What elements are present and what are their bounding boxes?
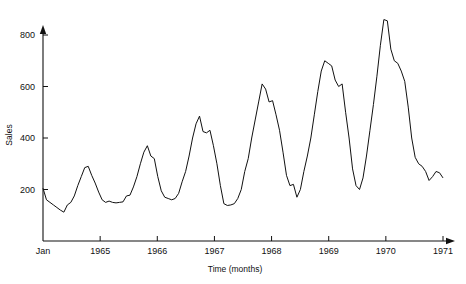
x-axis-ticks: Jan1965196619671968196919701971 — [36, 236, 453, 256]
y-axis-ticks: 200400600800 — [20, 30, 48, 195]
x-tick-label: 1967 — [204, 246, 224, 256]
x-axis-group: Jan1965196619671968196919701971 — [36, 236, 455, 256]
y-axis-group: 200400600800 — [20, 25, 48, 241]
y-axis-arrowhead — [40, 25, 46, 34]
x-tick-label: 1965 — [90, 246, 110, 256]
sales-line-series — [43, 20, 443, 213]
x-tick-label: 1966 — [147, 246, 167, 256]
y-tick-label: 600 — [20, 82, 35, 92]
x-tick-label: 1970 — [376, 246, 396, 256]
x-axis-title: Time (months) — [208, 264, 263, 274]
y-tick-label: 400 — [20, 133, 35, 143]
sales-time-series-chart: 200400600800 Jan196519661967196819691970… — [0, 0, 466, 284]
x-axis-arrowhead — [446, 238, 455, 244]
x-tick-label: 1968 — [262, 246, 282, 256]
chart-canvas: 200400600800 Jan196519661967196819691970… — [0, 0, 466, 284]
y-axis-title: Sales — [4, 124, 14, 145]
x-tick-label: 1971 — [433, 246, 453, 256]
x-tick-label: 1969 — [319, 246, 339, 256]
y-tick-label: 800 — [20, 30, 35, 40]
x-tick-label: Jan — [36, 246, 51, 256]
y-tick-label: 200 — [20, 185, 35, 195]
